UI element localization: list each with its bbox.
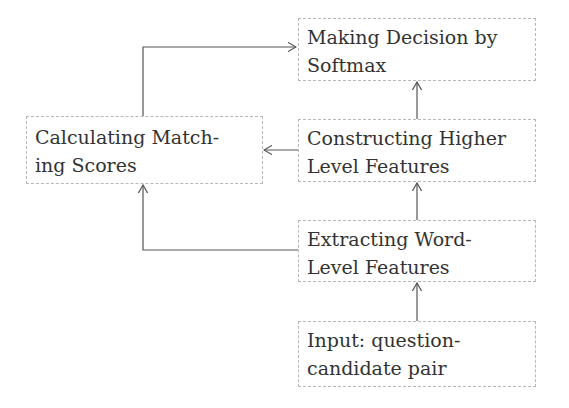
node-label-line2: candidate pair bbox=[307, 354, 527, 382]
edge-matching-to-softmax bbox=[143, 47, 296, 116]
node-label-line2: Level Features bbox=[307, 152, 527, 180]
node-matching-scores: Calculating Match- ing Scores bbox=[26, 116, 263, 184]
node-label-line1: Constructing Higher bbox=[307, 124, 527, 152]
node-label-line1: Calculating Match- bbox=[35, 123, 254, 151]
node-input-pair: Input: question- candidate pair bbox=[298, 321, 536, 387]
node-label-line1: Making Decision by bbox=[307, 23, 527, 51]
node-label-line2: ing Scores bbox=[35, 151, 254, 179]
node-label-line2: Level Features bbox=[307, 253, 527, 281]
node-higher-level-features: Constructing Higher Level Features bbox=[298, 119, 536, 182]
node-label-line1: Extracting Word- bbox=[307, 225, 527, 253]
edge-word-to-matching bbox=[143, 185, 298, 250]
node-softmax-decision: Making Decision by Softmax bbox=[298, 18, 536, 81]
node-label-line1: Input: question- bbox=[307, 326, 527, 354]
node-word-level-features: Extracting Word- Level Features bbox=[298, 220, 536, 282]
node-label-line2: Softmax bbox=[307, 51, 527, 79]
